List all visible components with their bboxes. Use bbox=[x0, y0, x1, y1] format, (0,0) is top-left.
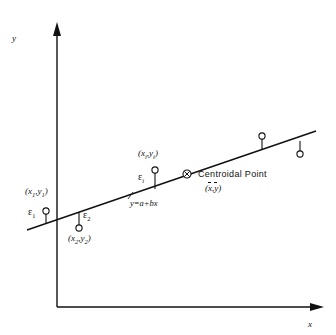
point-2-label-open: (x bbox=[68, 233, 75, 243]
centroid-y-bar: y bbox=[214, 183, 218, 193]
data-point-i bbox=[152, 167, 158, 173]
centroidal-point-label: Centroidal Point bbox=[198, 169, 267, 179]
residual-i-label: εi bbox=[138, 171, 144, 184]
residual-2-subscript: 2 bbox=[87, 215, 90, 222]
data-point-1 bbox=[43, 208, 49, 214]
centroidal-coords-label: (x,y) bbox=[205, 183, 221, 193]
residual-1-subscript: 1 bbox=[32, 212, 35, 219]
point-2-label: (x2,y2) bbox=[68, 233, 91, 245]
data-point-2 bbox=[76, 225, 82, 231]
x-axis-arrowhead bbox=[310, 303, 324, 311]
regression-diagram: y x (x1,y1) ε1 ε2 (x2,y2) (xi,yi) εi y=a… bbox=[0, 0, 336, 335]
centroid-paren-close: ) bbox=[218, 183, 221, 193]
centroidal-point-marker bbox=[183, 170, 191, 178]
residual-1-label: ε1 bbox=[28, 206, 35, 219]
regression-equation-label: y=a+bx bbox=[130, 198, 158, 208]
point-i-label-open: (x bbox=[138, 148, 145, 158]
point-1-label-open: (x bbox=[25, 186, 32, 196]
y-axis-arrowhead bbox=[53, 22, 61, 36]
data-point-4 bbox=[259, 133, 265, 139]
residual-2-label: ε2 bbox=[83, 209, 90, 222]
point-1-label-close: ) bbox=[45, 186, 48, 196]
y-axis-label: y bbox=[12, 33, 16, 43]
x-axis-label: x bbox=[308, 319, 312, 329]
point-1-label: (x1,y1) bbox=[25, 186, 48, 198]
residual-i-subscript: i bbox=[142, 177, 144, 184]
point-2-label-close: ) bbox=[88, 233, 91, 243]
regression-line bbox=[27, 131, 316, 230]
data-point-5 bbox=[297, 151, 303, 157]
centroid-x-bar: x bbox=[208, 183, 212, 193]
point-i-label: (xi,yi) bbox=[138, 148, 158, 160]
diagram-canvas bbox=[0, 0, 336, 335]
point-i-label-close: ) bbox=[155, 148, 158, 158]
